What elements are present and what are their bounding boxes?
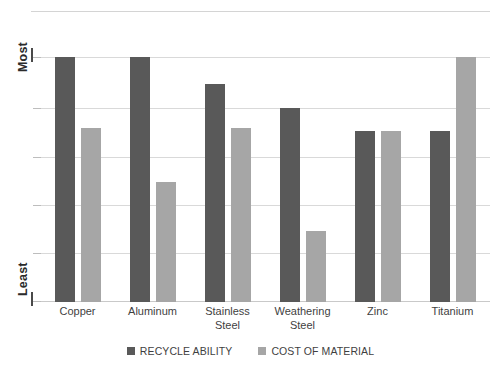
x-axis-tick-label: Aluminum (115, 305, 190, 332)
x-axis-labels: CopperAluminumStainless SteelWeathering … (40, 305, 490, 332)
x-axis-tick-label: Copper (40, 305, 115, 332)
bar-group (115, 57, 190, 302)
x-axis-tick-label: Zinc (340, 305, 415, 332)
y-axis-label-most: Most (16, 42, 30, 72)
legend-swatch-icon (258, 347, 266, 355)
bar[interactable] (456, 57, 476, 302)
bar-chart: Most Least CopperAluminumStainless Steel… (0, 0, 501, 379)
x-axis-tick-label: Stainless Steel (190, 305, 265, 332)
y-axis-cap-top (31, 48, 33, 62)
y-axis-cap-bottom (31, 292, 33, 306)
y-axis-label-least: Least (16, 262, 30, 296)
bar[interactable] (156, 182, 176, 302)
bar-group (415, 57, 490, 302)
bar[interactable] (306, 231, 326, 302)
x-axis-tick-label: Weathering Steel (265, 305, 340, 332)
bar-group (190, 57, 265, 302)
bar-group (265, 57, 340, 302)
bar[interactable] (430, 131, 450, 303)
legend-item[interactable]: COST OF MATERIAL (258, 345, 374, 357)
x-axis-tick-label: Titanium (415, 305, 490, 332)
legend-label: COST OF MATERIAL (271, 345, 374, 357)
top-divider-rule (31, 11, 490, 12)
bar[interactable] (355, 131, 375, 303)
chart-legend: RECYCLE ABILITYCOST OF MATERIAL (0, 345, 501, 357)
bar-group (340, 57, 415, 302)
bar[interactable] (205, 84, 225, 302)
bar[interactable] (231, 128, 251, 302)
bar-group (40, 57, 115, 302)
legend-swatch-icon (127, 347, 135, 355)
bar[interactable] (130, 57, 150, 302)
bar-groups (40, 57, 490, 302)
bar[interactable] (381, 131, 401, 303)
legend-label: RECYCLE ABILITY (140, 345, 233, 357)
bar[interactable] (55, 57, 75, 302)
bar[interactable] (81, 128, 101, 302)
bar[interactable] (280, 108, 300, 302)
legend-item[interactable]: RECYCLE ABILITY (127, 345, 233, 357)
